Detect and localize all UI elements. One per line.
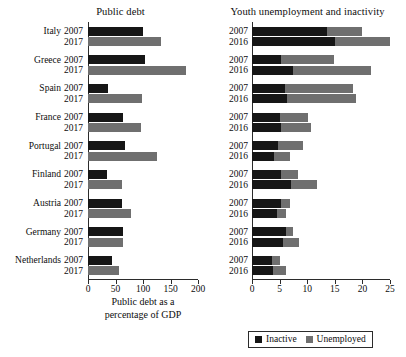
- bar-public-debt-austria-2017: [88, 209, 131, 218]
- segment-unemployed-netherlands-2007: [272, 256, 280, 265]
- tick-label-right-10: 10: [302, 284, 312, 294]
- segment-inactive-portugal-2016: [252, 152, 274, 161]
- bar-public-debt-france-2017: [88, 123, 141, 132]
- segment-unemployed-greece-2007: [281, 55, 333, 64]
- bar-youth-spain-2016: [252, 94, 356, 103]
- year-label-2017: 2017: [64, 266, 83, 276]
- country-label-netherlands: Netherlands: [15, 255, 61, 265]
- segment-inactive-germany-2007: [252, 227, 286, 236]
- segment-inactive-portugal-2007: [252, 141, 278, 150]
- year-label-2017: 2017: [64, 209, 83, 219]
- segment-inactive-austria-2016: [252, 209, 277, 218]
- bar-youth-netherlands-2007: [252, 256, 280, 265]
- country-label-finland: Finland: [32, 169, 61, 179]
- country-label-france: France: [35, 112, 61, 122]
- year-label-2007: 2007: [64, 255, 83, 265]
- bar-youth-italy-2016: [252, 37, 390, 46]
- year-label-2017: 2017: [64, 37, 83, 47]
- segment-unemployed-italy-2007: [327, 27, 363, 36]
- row-label-left-italy-2007: Italy2007: [44, 26, 83, 36]
- bar-youth-germany-2016: [252, 238, 299, 247]
- segment-inactive-austria-2007: [252, 199, 281, 208]
- segment-inactive-france-2007: [252, 113, 280, 122]
- x-ticks-right: 0510152025: [252, 280, 390, 302]
- bar-youth-portugal-2016: [252, 152, 290, 161]
- country-label-italy: Italy: [44, 26, 61, 36]
- legend-swatch-unemployed-icon: [306, 336, 313, 343]
- row-label-right-portugal-2007: 2007: [229, 141, 248, 151]
- panel-title-public-debt: Public debt: [0, 6, 205, 17]
- row-label-left-spain-2017: 2017: [64, 94, 83, 104]
- segment-unemployed-greece-2016: [293, 66, 370, 75]
- bar-youth-france-2016: [252, 123, 311, 132]
- caption-left-line2: percentage of GDP: [58, 309, 228, 322]
- country-label-austria: Austria: [33, 198, 61, 208]
- segment-unemployed-spain-2016: [287, 94, 356, 103]
- country-label-spain: Spain: [39, 83, 61, 93]
- legend-item-inactive: Inactive: [255, 333, 297, 345]
- row-label-left-portugal-2017: 2017: [64, 151, 83, 161]
- segment-unemployed-france-2007: [280, 113, 309, 122]
- year-label-2017: 2017: [64, 237, 83, 247]
- segment-unemployed-finland-2016: [291, 180, 317, 189]
- bar-public-debt-netherlands-2007: [88, 256, 112, 265]
- row-label-left-portugal-2007: Portugal2007: [29, 141, 83, 151]
- bar-youth-greece-2016: [252, 66, 371, 75]
- bar-public-debt-portugal-2007: [88, 141, 125, 150]
- year-label-2007: 2007: [64, 141, 83, 151]
- row-label-right-spain-2007: 2007: [229, 83, 248, 93]
- tick-label-left-150: 150: [163, 284, 177, 294]
- year-label-2007: 2007: [64, 112, 83, 122]
- segment-inactive-spain-2016: [252, 94, 287, 103]
- row-label-left-finland-2017: 2017: [64, 180, 83, 190]
- tick-label-left-0: 0: [86, 284, 91, 294]
- bar-youth-france-2007: [252, 113, 308, 122]
- row-label-left-netherlands-2017: 2017: [64, 266, 83, 276]
- bar-public-debt-finland-2007: [88, 170, 107, 179]
- row-label-right-germany-2016: 2016: [229, 237, 248, 247]
- row-label-left-france-2007: France2007: [35, 112, 83, 122]
- row-label-left-germany-2007: Germany2007: [26, 227, 83, 237]
- row-label-left-austria-2007: Austria2007: [33, 198, 83, 208]
- segment-unemployed-austria-2016: [277, 209, 286, 218]
- tick-label-left-50: 50: [111, 284, 121, 294]
- row-label-left-netherlands-2007: Netherlands2007: [15, 255, 83, 265]
- segment-inactive-france-2016: [252, 123, 281, 132]
- row-label-right-greece-2016: 2016: [229, 65, 248, 75]
- segment-unemployed-italy-2016: [335, 37, 390, 46]
- bar-public-debt-germany-2017: [88, 238, 123, 247]
- year-label-2007: 2007: [64, 26, 83, 36]
- plot-area-public-debt: 050100150200: [88, 22, 198, 280]
- segment-inactive-spain-2007: [252, 84, 285, 93]
- bar-youth-austria-2016: [252, 209, 286, 218]
- year-label-2017: 2017: [64, 151, 83, 161]
- row-label-right-netherlands-2016: 2016: [229, 266, 248, 276]
- segment-inactive-finland-2007: [252, 170, 281, 179]
- segment-unemployed-portugal-2007: [278, 141, 303, 150]
- row-label-right-france-2007: 2007: [229, 112, 248, 122]
- legend: Inactive Unemployed: [248, 331, 373, 348]
- row-label-right-greece-2007: 2007: [229, 55, 248, 65]
- bar-public-debt-portugal-2017: [88, 152, 157, 161]
- legend-label-unemployed: Unemployed: [317, 333, 366, 345]
- bar-public-debt-finland-2017: [88, 180, 122, 189]
- bar-youth-netherlands-2016: [252, 266, 286, 275]
- bar-youth-italy-2007: [252, 27, 362, 36]
- row-label-right-finland-2007: 2007: [229, 169, 248, 179]
- bar-youth-spain-2007: [252, 84, 353, 93]
- row-label-left-greece-2007: Greece2007: [34, 55, 83, 65]
- bar-public-debt-netherlands-2017: [88, 266, 119, 275]
- segment-inactive-greece-2016: [252, 66, 293, 75]
- tick-label-left-100: 100: [136, 284, 150, 294]
- caption-left-line1: Public debt as a: [58, 296, 228, 309]
- segment-unemployed-germany-2016: [283, 238, 299, 247]
- tick-label-left-200: 200: [191, 284, 205, 294]
- segment-inactive-greece-2007: [252, 55, 281, 64]
- tick-label-right-25: 25: [385, 284, 395, 294]
- row-label-right-netherlands-2007: 2007: [229, 255, 248, 265]
- year-label-2017: 2017: [64, 65, 83, 75]
- country-label-germany: Germany: [26, 227, 61, 237]
- segment-unemployed-finland-2007: [281, 170, 298, 179]
- bar-youth-finland-2016: [252, 180, 317, 189]
- bar-youth-germany-2007: [252, 227, 293, 236]
